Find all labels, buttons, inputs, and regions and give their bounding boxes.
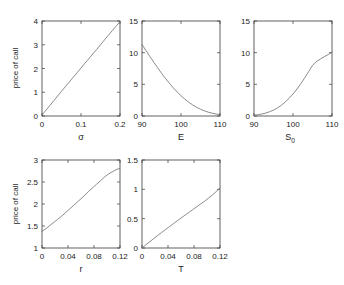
x-ticks-rate [42,160,120,248]
x-ticklabels-maturity: 00.040.080.12 [140,252,229,261]
x-tick-label: 100 [286,120,300,129]
x-tick-label: 0.08 [186,252,202,261]
subplot-sigma: 00.10.2 01234 σ price of call [0,6,125,146]
data-curve-spot [254,52,332,115]
y-tick-label: 2 [34,65,39,74]
y-ticklabels-sigma: 01234 [34,17,39,121]
y-tick-label: 1 [34,88,39,97]
data-curve-maturity [142,188,220,248]
y-tick-label: 15 [129,17,138,26]
y-tick-label: 5 [134,80,139,89]
plot-box-spot [254,21,332,116]
y-ticks-maturity [142,160,220,248]
y-tick-label: 0 [134,112,139,121]
y-tick-label: 0.5 [127,215,139,224]
x-axis-label-rate: r [80,264,83,274]
y-tick-label: 10 [129,49,138,58]
y-ticks-strike [142,21,220,116]
y-tick-label: 0 [34,112,39,121]
x-axis-label-maturity: T [178,264,184,274]
x-tick-label: 0 [40,120,45,129]
x-tick-label: 0.04 [160,252,176,261]
y-tick-label: 2.5 [27,178,39,187]
y-tick-label: 5 [246,80,251,89]
y-axis-label-rate: price of call [11,184,20,225]
x-ticks-maturity [142,160,220,248]
y-tick-label: 3 [34,156,39,165]
subplot-rate: 00.040.080.12 11.522.53 r price of call [0,148,125,283]
x-axis-label-spot-subscript: 0 [291,137,295,144]
data-curve-sigma [42,22,120,115]
x-tick-label: 100 [174,120,188,129]
y-ticklabels-maturity: 00.511.5 [127,156,139,253]
x-ticks-strike [142,21,220,116]
y-tick-label: 0 [246,112,251,121]
y-tick-label: 1 [134,185,139,194]
data-curve-strike [142,44,220,114]
y-tick-label: 1.5 [127,156,139,165]
y-tick-label: 1 [34,244,39,253]
x-ticklabels-strike: 90100110 [138,120,227,129]
x-tick-label: 0 [140,252,145,261]
y-ticks-spot [254,21,332,116]
subplot-maturity: 00.040.080.12 00.511.5 T [112,148,237,283]
y-tick-label: 0 [134,244,139,253]
y-ticklabels-strike: 051015 [129,17,138,121]
x-tick-label: 90 [250,120,259,129]
y-tick-label: 3 [34,41,39,50]
plot-box-strike [142,21,220,116]
plot-box-rate [42,160,120,248]
y-axis-label-sigma: price of call [11,48,20,89]
x-tick-label: 0.08 [86,252,102,261]
subplot-strike: 90100110 051015 E [112,6,237,146]
y-ticks-rate [42,160,120,248]
x-tick-label: 90 [138,120,147,129]
x-tick-label: 0.12 [212,252,228,261]
subplot-spot: 90100110 051015 S0 [224,6,344,146]
y-tick-label: 4 [34,17,39,26]
x-ticks-spot [254,21,332,116]
x-tick-label: 0.04 [60,252,76,261]
y-tick-label: 10 [241,49,250,58]
x-tick-label: 0.1 [75,120,87,129]
data-curve-rate [42,168,120,231]
y-ticklabels-rate: 11.522.53 [27,156,39,253]
figure-panel-grid: 00.10.2 01234 σ price of call 90100110 0… [0,0,344,285]
x-axis-label-sigma: σ [78,132,84,142]
y-tick-label: 1.5 [27,222,39,231]
x-ticklabels-spot: 90100110 [250,120,339,129]
y-ticklabels-spot: 051015 [241,17,250,121]
x-tick-label: 0 [40,252,45,261]
x-tick-label: 110 [326,120,339,129]
x-axis-label-spot: S0 [285,132,295,144]
plot-box-maturity [142,160,220,248]
y-tick-label: 15 [241,17,250,26]
x-axis-label-strike: E [178,132,184,142]
y-tick-label: 2 [34,200,39,209]
